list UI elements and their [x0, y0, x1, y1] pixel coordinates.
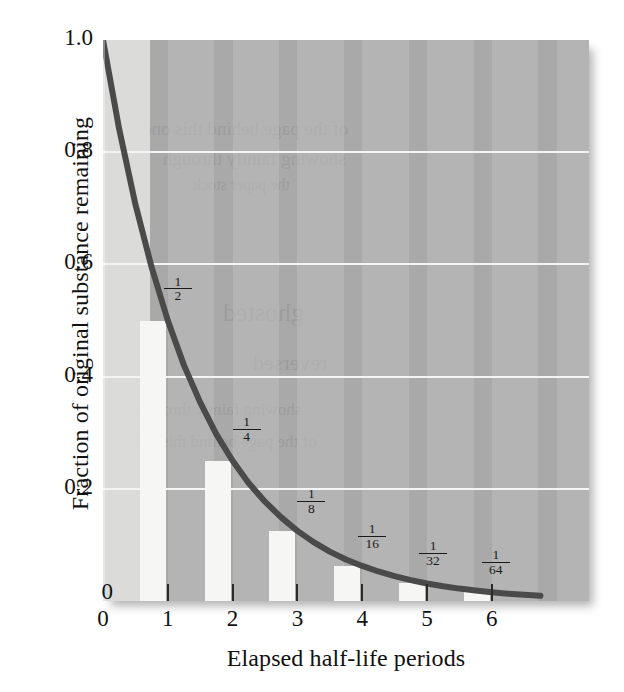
fraction-label: 18: [297, 487, 325, 516]
half-life-decay-figure: of the page behind this one showing fain…: [0, 0, 624, 692]
fraction-label: 12: [164, 275, 192, 304]
fraction-label: 164: [482, 548, 510, 577]
fraction-numerator: 1: [358, 522, 386, 536]
fraction-denominator: 16: [358, 536, 386, 551]
x-axis-tick-label: 4: [342, 606, 382, 632]
fraction-numerator: 1: [233, 415, 261, 429]
fraction-denominator: 8: [297, 501, 325, 516]
x-axis-tick: [167, 584, 169, 601]
x-axis-tick-label: 3: [277, 606, 317, 632]
fraction-label: 116: [358, 522, 386, 551]
fraction-label: 14: [233, 415, 261, 444]
x-axis-tick: [361, 584, 363, 601]
fraction-label: 132: [419, 539, 447, 568]
fraction-denominator: 4: [233, 429, 261, 444]
fraction-numerator: 1: [419, 539, 447, 553]
y-axis-title: Fraction of original substance remaining: [67, 34, 94, 594]
plot-area: of the page behind this one showing fain…: [103, 40, 589, 601]
x-axis-tick-label: 0: [83, 606, 123, 632]
fraction-numerator: 1: [164, 275, 192, 289]
x-axis-tick-label: 2: [213, 606, 253, 632]
x-axis-tick: [232, 584, 234, 601]
x-axis-tick-label: 5: [407, 606, 447, 632]
fraction-numerator: 1: [297, 487, 325, 501]
panel-left-edge: [103, 40, 105, 601]
x-axis-tick: [491, 584, 493, 601]
x-axis-tick: [426, 584, 428, 601]
fraction-numerator: 1: [482, 548, 510, 562]
x-axis-tick: [296, 584, 298, 601]
fraction-denominator: 32: [419, 553, 447, 568]
fraction-denominator: 2: [164, 288, 192, 303]
x-axis-tick-label: 6: [472, 606, 512, 632]
decay-curve: [103, 40, 589, 601]
x-axis-title: Elapsed half-life periods: [103, 645, 589, 672]
x-axis-tick-label: 1: [148, 606, 188, 632]
fraction-denominator: 64: [482, 562, 510, 577]
